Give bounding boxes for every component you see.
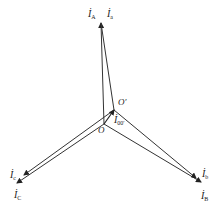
phasor-IB-line [104,124,201,182]
phasor-Ib-line [114,110,196,178]
label-IB: İB [201,191,208,202]
label-IA: İA [88,9,96,20]
phasor-lines [0,0,219,211]
label-I00: İ00′ [114,115,125,126]
phasor-I00-line [104,110,114,124]
point-O: O [98,126,105,135]
label-IC: İC [14,190,21,201]
point-O-prime: O′ [118,98,126,107]
phasor-diagram: İA İa İB İb İC İc İ00′ O O′ [0,0,219,211]
label-Ib: İb [202,169,208,180]
label-Ic: İc [10,170,16,181]
label-Ia: İa [107,9,113,20]
phasor-IC-line [17,124,104,183]
phasor-Ic-line [24,110,114,175]
